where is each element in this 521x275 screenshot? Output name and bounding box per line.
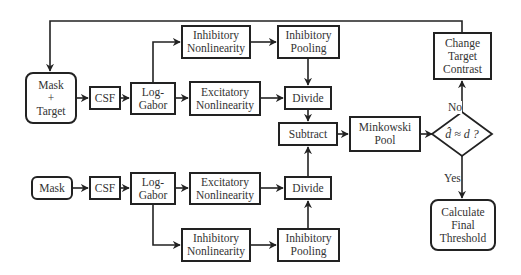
inhibitory-nonlinearity-bottom-node: Inhibitory Nonlinearity — [181, 228, 251, 262]
mask-target-line-2: + — [48, 92, 55, 105]
log-gabor-bottom-line-1: Log- — [142, 176, 164, 189]
calculate-final-threshold-node: Calculate Final Threshold — [430, 199, 496, 251]
edge-label-no: No — [448, 101, 462, 114]
inhibitory-pooling-bottom-node: Inhibitory Pooling — [277, 228, 340, 262]
mask-target-line-1: Mask — [38, 79, 64, 92]
flowchart-canvas: Mask + Target CSF Log- Gabor Inhibitory … — [0, 0, 521, 275]
inh-pool-top-line-1: Inhibitory — [286, 29, 332, 42]
log-gabor-top-line-1: Log- — [142, 86, 164, 99]
csf-bottom-label: CSF — [95, 182, 115, 195]
minkowski-line-1: Minkowski — [359, 121, 411, 134]
change-line-3: Contrast — [443, 63, 482, 76]
inh-pool-bottom-line-1: Inhibitory — [286, 232, 332, 245]
divide-bottom-node: Divide — [284, 176, 332, 200]
subtract-label: Subtract — [289, 128, 327, 141]
edge-label-yes: Yes — [444, 172, 461, 185]
log-gabor-bottom-node: Log- Gabor — [130, 172, 176, 205]
divide-top-label: Divide — [292, 92, 323, 105]
exc-nonlin-top-line-1: Excitatory — [201, 86, 249, 99]
mask-target-node: Mask + Target — [25, 72, 77, 124]
divide-bottom-label: Divide — [292, 182, 323, 195]
decision-label: d̂ ≈ d ? — [434, 127, 490, 141]
minkowski-line-2: Pool — [374, 134, 395, 147]
mask-target-line-3: Target — [37, 105, 66, 118]
log-gabor-top-node: Log- Gabor — [130, 82, 176, 115]
mask-node: Mask — [31, 176, 73, 200]
inh-nonlin-top-line-2: Nonlinearity — [187, 42, 245, 55]
log-gabor-bottom-line-2: Gabor — [139, 189, 168, 202]
calc-line-3: Threshold — [440, 232, 487, 245]
calc-line-1: Calculate — [441, 206, 484, 219]
inh-nonlin-bottom-line-2: Nonlinearity — [187, 245, 245, 258]
inh-pool-top-line-2: Pooling — [291, 42, 327, 55]
change-line-1: Change — [445, 37, 480, 50]
minkowski-pool-node: Minkowski Pool — [349, 116, 421, 152]
change-target-contrast-node: Change Target Contrast — [433, 32, 492, 80]
csf-bottom-node: CSF — [89, 176, 121, 200]
subtract-node: Subtract — [278, 122, 338, 146]
inh-nonlin-bottom-line-1: Inhibitory — [193, 232, 239, 245]
exc-nonlin-bottom-line-2: Nonlinearity — [196, 189, 254, 202]
calc-line-2: Final — [451, 219, 475, 232]
excitatory-nonlinearity-bottom-node: Excitatory Nonlinearity — [189, 172, 261, 205]
divide-top-node: Divide — [284, 86, 332, 110]
inhibitory-nonlinearity-top-node: Inhibitory Nonlinearity — [181, 25, 251, 59]
exc-nonlin-top-line-2: Nonlinearity — [196, 99, 254, 112]
excitatory-nonlinearity-top-node: Excitatory Nonlinearity — [189, 81, 261, 116]
log-gabor-top-line-2: Gabor — [139, 99, 168, 112]
csf-top-label: CSF — [95, 92, 115, 105]
inh-pool-bottom-line-2: Pooling — [291, 245, 327, 258]
csf-top-node: CSF — [89, 86, 121, 110]
inh-nonlin-top-line-1: Inhibitory — [193, 29, 239, 42]
exc-nonlin-bottom-line-1: Excitatory — [201, 176, 249, 189]
mask-label: Mask — [39, 182, 65, 195]
inhibitory-pooling-top-node: Inhibitory Pooling — [277, 25, 340, 59]
change-line-2: Target — [448, 50, 477, 63]
